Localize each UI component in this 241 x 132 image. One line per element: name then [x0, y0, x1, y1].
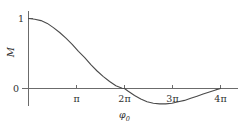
- curve-M: [29, 19, 221, 104]
- x-tick-label-3pi: 3π: [166, 93, 178, 104]
- plot-canvas: 1 0 π 2π 3π 4π M φ0: [0, 0, 241, 132]
- phi-zero-subscript: 0: [126, 115, 130, 123]
- x-tick-label-2pi: 2π: [118, 93, 130, 104]
- x-tick-label-4pi: 4π: [214, 93, 226, 104]
- figure-container: 1 0 π 2π 3π 4π M φ0: [0, 0, 241, 132]
- y-tick-label-0: 0: [13, 83, 19, 94]
- x-tick-label-pi: π: [73, 93, 79, 104]
- y-tick-label-1: 1: [18, 13, 24, 24]
- phi-zero-label: φ0: [119, 109, 130, 123]
- y-axis-title: M: [5, 46, 16, 58]
